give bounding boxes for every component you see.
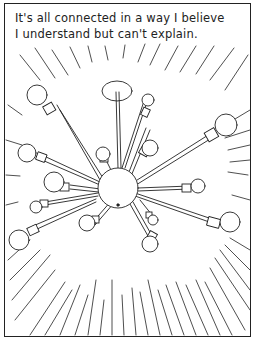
sputnik-chandelier-icon bbox=[0, 0, 258, 346]
chandelier bbox=[9, 81, 240, 252]
